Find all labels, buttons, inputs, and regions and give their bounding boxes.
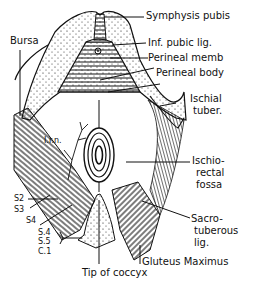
label-s5: S.5 (38, 237, 51, 246)
label-ischial-tuber-1: Ischial (190, 94, 222, 104)
label-ischiorectal-2: rectal (196, 168, 224, 178)
label-symphysis-pubis: Symphysis pubis (146, 11, 230, 21)
label-perineal-body: Perineal body (156, 68, 224, 78)
label-ischiorectal-1: Ischio- (192, 156, 225, 166)
label-bursa: Bursa (10, 36, 39, 46)
label-ischial-tuber-2: tuber. (193, 106, 222, 116)
label-s4b: S.4 (38, 228, 51, 237)
label-sacrotuberous-3: lig. (194, 238, 209, 248)
anal-sphincter (84, 100, 114, 192)
label-tip-of-coccyx: Tip of coccyx (82, 268, 147, 278)
label-perineal-memb: Perineal memb (148, 53, 223, 63)
label-s2: S2 (14, 194, 24, 203)
label-sacrotuberous-2: tuberous (194, 226, 238, 236)
label-ischiorectal-3: fossa (196, 180, 222, 190)
sacrotuberous-ligament (148, 100, 184, 215)
symphysis (94, 14, 106, 40)
perineum-diagram: Symphysis pubis Bursa Inf. pubic lig. Pe… (0, 0, 264, 288)
label-s4: S4 (26, 216, 36, 225)
label-sacrotuberous-1: Sacro- (191, 214, 223, 224)
label-gluteus-maximus: Gluteus Maximus (142, 257, 228, 267)
label-inferior-rectal-nerve: I.r.n. (44, 136, 62, 145)
label-s3: S3 (14, 205, 24, 214)
label-c1: C.1 (38, 247, 51, 256)
label-inf-pubic-lig: Inf. pubic lig. (148, 38, 212, 48)
